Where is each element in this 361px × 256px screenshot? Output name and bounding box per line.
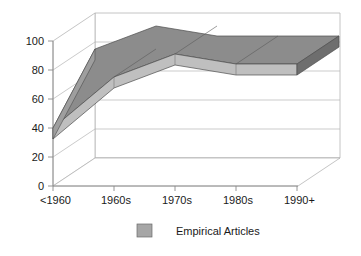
legend-label-empirical-articles: Empirical Articles <box>176 225 260 237</box>
y-tick-label-100: 100 <box>26 35 44 47</box>
x-cat-label-1960s: 1960s <box>101 194 131 206</box>
x-cat-label-1990plus: 1990+ <box>284 194 315 206</box>
x-cat-label-1980s: 1980s <box>223 194 253 206</box>
back-wall <box>95 13 340 158</box>
x-cat-label-1970s: 1970s <box>162 194 192 206</box>
y-tick-label-0: 0 <box>38 180 44 192</box>
chart-container: 0 20 40 60 80 100 <box>0 0 361 256</box>
area-chart-3d: 0 20 40 60 80 100 <box>0 0 361 256</box>
floor-plane <box>53 158 340 186</box>
y-tick-label-60: 60 <box>32 93 44 105</box>
legend-swatch-empirical-articles <box>137 224 152 237</box>
x-cat-label-pre1960: <1960 <box>40 194 71 206</box>
y-tick-label-80: 80 <box>32 64 44 76</box>
y-tick-label-40: 40 <box>32 122 44 134</box>
y-tick-label-20: 20 <box>32 151 44 163</box>
